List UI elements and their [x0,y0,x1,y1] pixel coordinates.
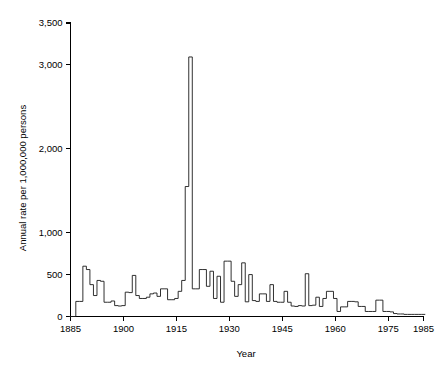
y-tick-label: 3,500 [39,17,63,28]
x-tick-label: 1900 [113,323,134,334]
x-tick-label: 1960 [325,323,346,334]
x-tick-label: 1945 [272,323,293,334]
x-axis-tick-labels: 18851900191519301945196019751985 [60,323,434,334]
y-axis-title: Annual rate per 1,000,000 persons [17,105,28,252]
y-tick-label: 0 [57,311,62,322]
y-tick-label: 1,000 [39,227,63,238]
y-tick-label: 3,000 [39,59,63,70]
x-tick-label: 1915 [166,323,187,334]
x-axis-tick-marks [71,317,424,322]
x-tick-label: 1985 [413,323,434,334]
x-axis-title: Year [236,348,255,359]
chart-svg: 05001,0002,0003,0003,500 188519001915193… [0,0,442,367]
y-tick-label: 500 [47,269,63,280]
data-series-line [69,57,426,317]
x-tick-label: 1930 [219,323,240,334]
y-axis-tick-marks [66,23,71,317]
x-tick-label: 1885 [60,323,81,334]
y-tick-label: 2,000 [39,143,63,154]
axis-lines [71,23,424,317]
y-axis-tick-labels: 05001,0002,0003,0003,500 [39,17,63,322]
chart-container: 05001,0002,0003,0003,500 188519001915193… [0,0,442,367]
x-tick-label: 1975 [378,323,399,334]
